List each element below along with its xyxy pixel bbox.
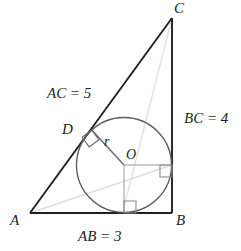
vertex-label-b: B: [176, 213, 185, 228]
radius-label: r: [104, 135, 109, 149]
side-length-label-ab: AB = 3: [78, 229, 121, 244]
geometry-figure: C A B D O r AC = 5 BC = 4 AB = 3: [0, 0, 241, 251]
triangle-abc: [30, 18, 172, 213]
faint-line-c-to-o-extended: [124, 18, 172, 207]
vertex-label-a: A: [10, 213, 19, 228]
point-label-d: D: [62, 122, 73, 137]
vertex-label-c: C: [174, 1, 184, 16]
side-ac: [30, 18, 172, 213]
side-length-label-bc: BC = 4: [184, 111, 228, 126]
side-length-label-ac: AC = 5: [47, 86, 91, 101]
incircle-center-label: O: [126, 148, 136, 162]
